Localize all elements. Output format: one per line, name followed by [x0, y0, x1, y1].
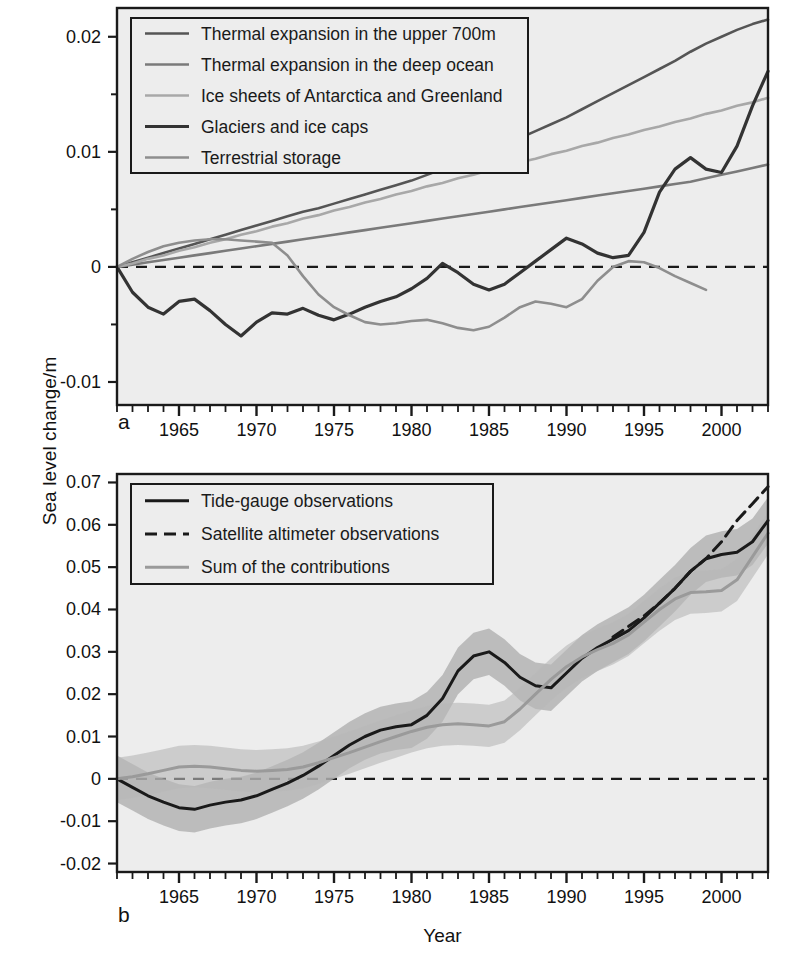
- legend-label-1: Satellite altimeter observations: [201, 524, 440, 544]
- y-tick-label: 0: [0, 768, 101, 789]
- y-tick-label: 0.04: [0, 599, 101, 620]
- y-tick-label: 0.02: [0, 26, 101, 47]
- x-axis-title: Year: [117, 925, 768, 947]
- y-tick-label: 0.05: [0, 557, 101, 578]
- x-tick-label: 1980: [391, 887, 431, 908]
- legend-label-4: Terrestrial storage: [201, 148, 341, 168]
- x-tick-label: 1995: [624, 887, 664, 908]
- legend-a: Thermal expansion in the upper 700mTherm…: [131, 18, 528, 173]
- x-tick-label: 1970: [236, 420, 276, 441]
- legend-label-0: Tide-gauge observations: [201, 491, 393, 511]
- x-tick-label: 1985: [469, 420, 509, 441]
- legend-label-2: Sum of the contributions: [201, 557, 390, 577]
- y-tick-label: 0.06: [0, 514, 101, 535]
- figure-canvas: Thermal expansion in the upper 700mTherm…: [0, 0, 785, 960]
- panel-label-a: a: [118, 410, 130, 434]
- x-tick-label: 2000: [701, 887, 741, 908]
- x-tick-label: 1975: [314, 420, 354, 441]
- y-tick-label: 0.07: [0, 472, 101, 493]
- legend-b: Tide-gauge observationsSatellite altimet…: [131, 484, 493, 584]
- x-tick-label: 1995: [624, 420, 664, 441]
- legend-label-1: Thermal expansion in the deep ocean: [201, 55, 494, 75]
- legend-label-0: Thermal expansion in the upper 700m: [201, 24, 496, 44]
- y-tick-label: 0.01: [0, 726, 101, 747]
- x-tick-label: 1965: [159, 887, 199, 908]
- y-tick-label: 0.02: [0, 684, 101, 705]
- y-tick-label: -0.01: [0, 371, 101, 392]
- x-tick-label: 1990: [546, 887, 586, 908]
- panel-b: Tide-gauge observationsSatellite altimet…: [108, 474, 768, 883]
- x-tick-label: 2000: [701, 420, 741, 441]
- y-tick-label: 0: [0, 256, 101, 277]
- y-tick-label: -0.01: [0, 811, 101, 832]
- y-tick-label: -0.02: [0, 853, 101, 874]
- legend-label-3: Glaciers and ice caps: [201, 117, 369, 137]
- panel-a: Thermal expansion in the upper 700mTherm…: [108, 8, 768, 416]
- panel-label-b: b: [118, 903, 130, 927]
- legend-label-2: Ice sheets of Antarctica and Greenland: [201, 86, 503, 106]
- y-tick-label: 0.01: [0, 141, 101, 162]
- x-tick-label: 1985: [469, 887, 509, 908]
- x-tick-label: 1965: [159, 420, 199, 441]
- x-tick-label: 1980: [391, 420, 431, 441]
- y-axis-title: Sea level change/m: [39, 241, 61, 641]
- x-tick-label: 1975: [314, 887, 354, 908]
- sea-level-change-figure: Sea level change/m Year a b Thermal expa…: [0, 0, 785, 960]
- y-tick-label: 0.03: [0, 641, 101, 662]
- x-tick-label: 1970: [236, 887, 276, 908]
- x-tick-label: 1990: [546, 420, 586, 441]
